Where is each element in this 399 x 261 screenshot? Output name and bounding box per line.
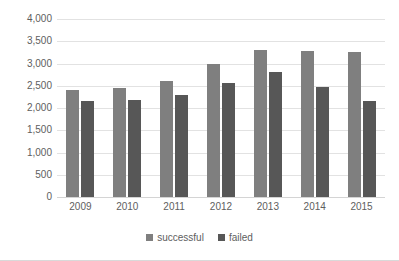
gridline [57, 64, 385, 65]
bar-successful-2012 [207, 64, 220, 197]
bar-successful-2010 [113, 88, 126, 197]
bar-successful-2009 [66, 90, 79, 197]
legend-swatch-icon [146, 234, 153, 241]
bar-successful-2013 [254, 50, 267, 197]
x-axis-tick-label: 2014 [291, 201, 338, 213]
y-axis-tick-label: 2,000 [0, 103, 52, 113]
bar-failed-2015 [363, 101, 376, 197]
bar-successful-2011 [160, 81, 173, 197]
legend-label: failed [229, 232, 253, 243]
plot-area [57, 19, 385, 197]
gridline [57, 175, 385, 176]
y-axis-tick-label: 0 [0, 192, 52, 202]
gridline [57, 197, 385, 198]
gridline [57, 86, 385, 87]
bar-chart: 05001,0001,5002,0002,5003,0003,5004,000 … [0, 0, 399, 261]
chart-legend: successfulfailed [0, 229, 399, 245]
gridline [57, 130, 385, 131]
x-axis-tick-label: 2012 [198, 201, 245, 213]
bar-failed-2014 [316, 87, 329, 197]
x-axis: 2009201020112012201320142015 [57, 201, 385, 217]
bar-failed-2013 [269, 72, 282, 197]
legend-item-successful[interactable]: successful [146, 232, 204, 243]
y-axis: 05001,0001,5002,0002,5003,0003,5004,000 [0, 0, 52, 197]
x-axis-tick-label: 2010 [104, 201, 151, 213]
y-axis-tick-label: 3,500 [0, 36, 52, 46]
gridline [57, 108, 385, 109]
legend-swatch-icon [218, 234, 225, 241]
y-axis-tick-label: 500 [0, 170, 52, 180]
bar-failed-2011 [175, 95, 188, 197]
bar-successful-2014 [301, 51, 314, 197]
x-axis-tick-label: 2013 [244, 201, 291, 213]
x-axis-tick-label: 2009 [57, 201, 104, 213]
y-axis-tick-label: 4,000 [0, 14, 52, 24]
bar-failed-2009 [81, 101, 94, 197]
legend-label: successful [157, 232, 204, 243]
bar-failed-2012 [222, 83, 235, 197]
y-axis-tick-label: 1,500 [0, 125, 52, 135]
gridline [57, 41, 385, 42]
gridline [57, 19, 385, 20]
y-axis-tick-label: 2,500 [0, 81, 52, 91]
bar-successful-2015 [348, 52, 361, 197]
y-axis-tick-label: 1,000 [0, 148, 52, 158]
gridline [57, 153, 385, 154]
legend-item-failed[interactable]: failed [218, 232, 253, 243]
y-axis-tick-label: 3,000 [0, 59, 52, 69]
bar-failed-2010 [128, 100, 141, 197]
x-axis-tick-label: 2015 [338, 201, 385, 213]
x-axis-tick-label: 2011 [151, 201, 198, 213]
